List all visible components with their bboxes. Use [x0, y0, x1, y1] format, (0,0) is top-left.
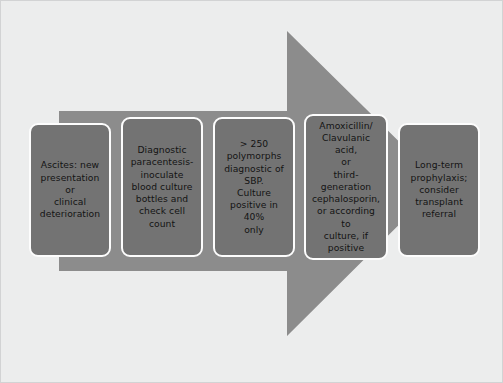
step-box-diagnostic-paracentesis[interactable]: Diagnostic paracentesis- inoculate blood… [121, 117, 203, 257]
process-steps-layer: Ascites: new presentation or clinical de… [1, 1, 503, 383]
step-label-diagnosis-criteria: > 250 polymorphs diagnostic of SBP. Cult… [220, 138, 288, 236]
step-box-presentation[interactable]: Ascites: new presentation or clinical de… [29, 123, 111, 257]
flowchart-figure: Ascites: new presentation or clinical de… [0, 0, 503, 383]
step-label-antibiotic-treatment: Amoxicillin/ Clavulanic acid, or third- … [311, 120, 381, 255]
step-label-diagnostic-paracentesis: Diagnostic paracentesis- inoculate blood… [128, 144, 196, 230]
step-label-presentation: Ascites: new presentation or clinical de… [36, 159, 104, 220]
step-box-long-term-management[interactable]: Long-term prophylaxis; consider transpla… [398, 123, 480, 257]
step-box-antibiotic-treatment[interactable]: Amoxicillin/ Clavulanic acid, or third- … [304, 114, 388, 260]
step-box-diagnosis-criteria[interactable]: > 250 polymorphs diagnostic of SBP. Cult… [213, 117, 295, 257]
step-label-long-term-management: Long-term prophylaxis; consider transpla… [405, 159, 473, 220]
